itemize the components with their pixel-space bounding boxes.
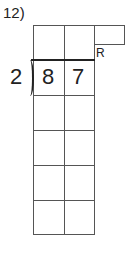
work-grid <box>33 25 95 235</box>
dividend-digit: 7 <box>63 66 93 88</box>
grid-row-line <box>34 165 94 166</box>
division-bar <box>31 59 95 61</box>
grid-row-line <box>34 95 94 96</box>
divisor: 2 <box>10 66 22 88</box>
problem-number: 12) <box>3 5 25 20</box>
dividend-digit: 8 <box>33 66 63 88</box>
grid-row-line <box>34 130 94 131</box>
remainder-label: R <box>96 47 105 59</box>
remainder-box[interactable] <box>94 25 125 45</box>
grid-row-line <box>34 200 94 201</box>
